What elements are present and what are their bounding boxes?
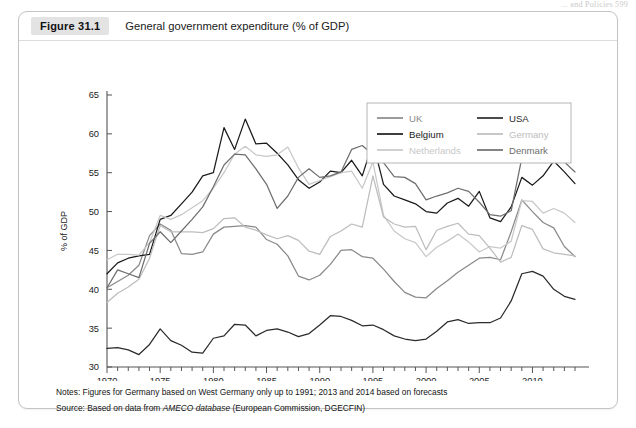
source-line: Source: Based on data from AMECO databas… (56, 403, 365, 413)
y-tick-label: 60 (89, 129, 99, 139)
running-head: ... and Policies 599 (561, 0, 628, 9)
notes-text: Figures for Germany based on West German… (83, 387, 448, 397)
x-tick-label: 1970 (97, 376, 118, 381)
x-tick-label: 1985 (256, 376, 277, 381)
x-tick-label: 2005 (469, 376, 490, 381)
source-italic: AMECO database (163, 403, 231, 413)
x-tick-label: 1975 (150, 376, 171, 381)
figure-title: General government expenditure (% of GDP… (125, 20, 349, 32)
notes-line: Notes: Figures for Germany based on West… (56, 387, 447, 397)
legend-label: Germany (509, 129, 549, 140)
figure-box: Figure 31.1 General government expenditu… (18, 11, 618, 409)
series-line-germany (107, 176, 575, 303)
y-tick-label: 45 (89, 246, 99, 256)
legend-label: USA (509, 113, 529, 124)
source-label: Source: (56, 403, 85, 413)
legend-label: Belgium (409, 129, 444, 140)
y-tick-label: 55 (89, 168, 99, 178)
source-text-pre: Based on data from (87, 403, 162, 413)
chart-plot-area: 3035404550556065197019751980198519901995… (19, 41, 617, 381)
y-tick-label: 65 (89, 90, 99, 100)
figure-number-tag: Figure 31.1 (31, 17, 109, 35)
legend-label: UK (409, 113, 423, 124)
x-tick-label: 1990 (309, 376, 330, 381)
line-chart: 3035404550556065197019751980198519901995… (19, 41, 617, 381)
source-text-post: (European Commission, DGECFIN) (230, 403, 365, 413)
y-tick-label: 40 (89, 285, 99, 295)
y-tick-label: 50 (89, 207, 99, 217)
y-axis-title: % of GDP (59, 211, 69, 251)
y-tick-label: 30 (89, 362, 99, 372)
notes-label: Notes: (56, 387, 80, 397)
legend-label: Netherlands (409, 145, 461, 156)
y-tick-label: 35 (89, 324, 99, 334)
legend-label: Denmark (509, 145, 548, 156)
x-tick-label: 1980 (203, 376, 224, 381)
x-tick-label: 2000 (416, 376, 437, 381)
series-line-usa (107, 271, 575, 354)
x-tick-label: 2010 (522, 376, 543, 381)
figure-header: Figure 31.1 General government expenditu… (19, 12, 617, 40)
x-tick-label: 1995 (363, 376, 384, 381)
